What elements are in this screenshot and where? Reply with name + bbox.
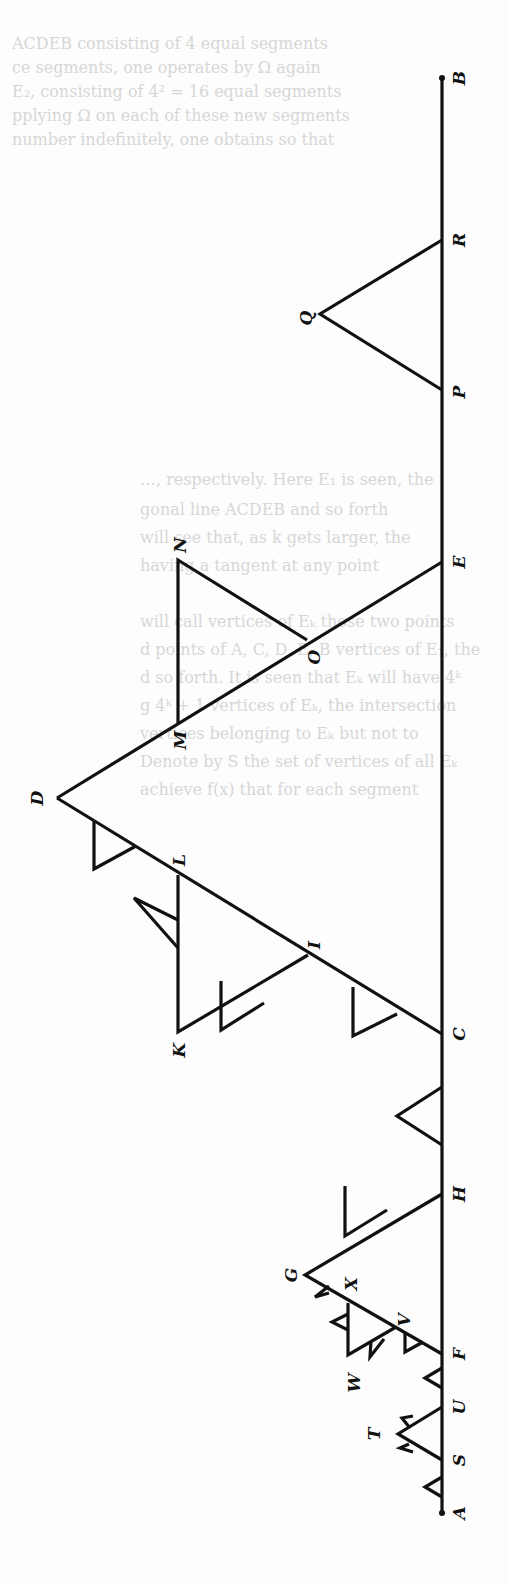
small-triangle <box>400 1444 413 1452</box>
triangle-PQR <box>320 240 442 390</box>
label-G: G <box>281 1268 301 1283</box>
small-triangle <box>94 820 136 869</box>
label-T: T <box>364 1426 384 1440</box>
label-I: I <box>304 940 324 950</box>
small-triangle <box>397 1087 442 1145</box>
small-triangle <box>134 898 178 948</box>
label-C: C <box>449 1027 469 1041</box>
endpoint-A <box>439 1510 445 1516</box>
label-K: K <box>169 1041 189 1058</box>
koch-curve-figure: A S T U F W V X G H C K I L D M O N E P … <box>0 0 509 1586</box>
small-triangle <box>370 1339 384 1357</box>
label-B: B <box>449 71 469 86</box>
label-M: M <box>170 729 190 750</box>
label-P: P <box>449 384 469 399</box>
small-triangle <box>332 1314 348 1330</box>
label-Q: Q <box>296 310 316 325</box>
label-D: D <box>27 790 47 806</box>
label-R: R <box>449 233 469 248</box>
label-X: X <box>341 1277 361 1292</box>
label-F: F <box>449 1346 469 1361</box>
segment-D-E <box>57 562 442 798</box>
endpoint-B <box>439 75 445 81</box>
small-triangle <box>221 981 264 1030</box>
label-W: W <box>344 1372 364 1393</box>
label-V: V <box>394 1312 414 1327</box>
label-S: S <box>449 1454 469 1466</box>
small-triangle <box>315 1286 329 1297</box>
triangle-STU <box>398 1407 442 1460</box>
label-A: A <box>449 1506 469 1521</box>
triangle-KIL <box>178 875 308 1032</box>
label-U: U <box>449 1398 469 1414</box>
small-triangle <box>425 1368 442 1388</box>
small-triangle <box>425 1477 442 1497</box>
label-N: N <box>170 536 190 554</box>
label-E: E <box>449 554 469 569</box>
label-L: L <box>169 854 189 867</box>
label-O: O <box>304 649 324 664</box>
label-H: H <box>449 1185 469 1203</box>
segment-C-D <box>57 798 442 1034</box>
triangle-MNO <box>178 560 307 723</box>
